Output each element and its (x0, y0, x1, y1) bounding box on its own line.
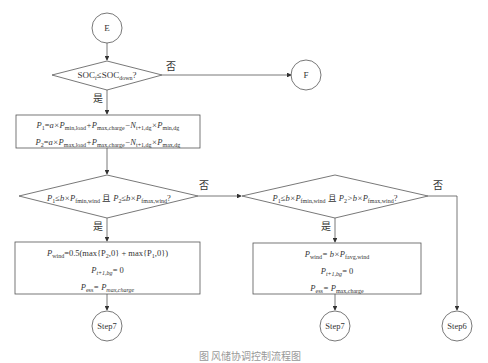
process1-line2: P2=a×Pmax,load+Pmax,charge−Nt+1,dg×Pmax,… (16, 135, 200, 152)
process3-line3: Pess= Pmax,charge (253, 281, 421, 298)
decision1-no-label: 否 (166, 62, 176, 72)
process2-line1: Pwind=0.5(max{P2,0} + max{P1,0}) (15, 246, 200, 263)
decision3-no-label: 否 (433, 181, 443, 191)
process3-line2: Pt+1,bg= 0 (253, 264, 421, 281)
decision2-no-label: 否 (199, 181, 209, 191)
step6-label: Step6 (442, 321, 472, 331)
decision1-text: SOCt≤SOCdown? (62, 70, 152, 81)
process2-line2: Pt+1,bg= 0 (15, 263, 200, 280)
process1-text: P1=a×Pmin,load+Pmax,charge−Nt+1,dg×Pmin,… (16, 118, 200, 152)
figure-caption: 图 风储协调控制流程图 (150, 348, 350, 363)
decision2-text: P1≤b×Pfmin,wind 且 P2≤b×Pfmax,wind? (30, 191, 188, 204)
start-node-label: E (92, 23, 122, 33)
process3-text: Pwind= b×Pfavg,wind Pt+1,bg= 0 Pess= Pma… (253, 247, 421, 298)
decision3-text: P1≤b×Pfmin,wind 且 P2>b×Pfmax,wind? (256, 191, 414, 204)
decision3-yes-label: 是 (321, 222, 331, 232)
decision1-yes-label: 是 (93, 94, 103, 104)
exit-f-label: F (291, 70, 321, 80)
process2-line3: Pess= Pmax,charge (15, 280, 200, 297)
decision2-yes-label: 是 (93, 222, 103, 232)
step7-b-label: Step7 (320, 321, 350, 331)
process1-line1: P1=a×Pmin,load+Pmax,charge−Nt+1,dg×Pmin,… (16, 118, 200, 135)
process3-line1: Pwind= b×Pfavg,wind (253, 247, 421, 264)
process2-text: Pwind=0.5(max{P2,0} + max{P1,0}) Pt+1,bg… (15, 246, 200, 297)
step7-a-label: Step7 (92, 321, 122, 331)
